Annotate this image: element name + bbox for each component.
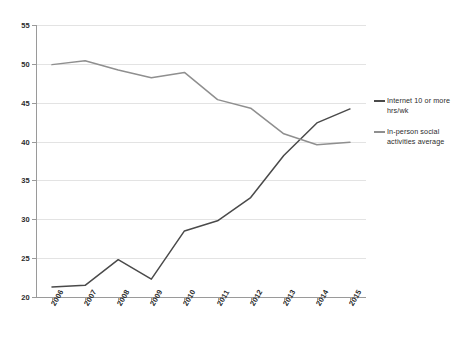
gridline-y (36, 25, 366, 26)
y-tick-label: 30 (0, 215, 30, 224)
legend-label: Internet 10 or more hrs/wk (387, 96, 459, 115)
series-layer (0, 0, 461, 342)
y-tick-label: 35 (0, 176, 30, 185)
y-axis-line (36, 25, 37, 297)
chart-legend: Internet 10 or more hrs/wkIn-person soci… (374, 96, 459, 158)
legend-label: In-person social activities average (387, 127, 459, 146)
y-tick-label: 45 (0, 98, 30, 107)
series-line (52, 109, 350, 287)
y-tick-label: 55 (0, 21, 30, 30)
gridline-y (36, 64, 366, 65)
gridline-y (36, 103, 366, 104)
legend-line-swatch-icon (374, 131, 385, 133)
y-tick-label: 20 (0, 293, 30, 302)
gridline-y (36, 180, 366, 181)
legend-entry[interactable]: In-person social activities average (374, 127, 459, 146)
gridline-y (36, 219, 366, 220)
gridline-y (36, 258, 366, 259)
y-tick-label: 50 (0, 59, 30, 68)
legend-line-swatch-icon (374, 100, 385, 102)
gridline-y (36, 142, 366, 143)
legend-entry[interactable]: Internet 10 or more hrs/wk (374, 96, 459, 115)
y-tick-label: 40 (0, 137, 30, 146)
y-tick-label: 25 (0, 254, 30, 263)
line-chart: 2025303540455055 20062007200820092010201… (0, 0, 461, 342)
